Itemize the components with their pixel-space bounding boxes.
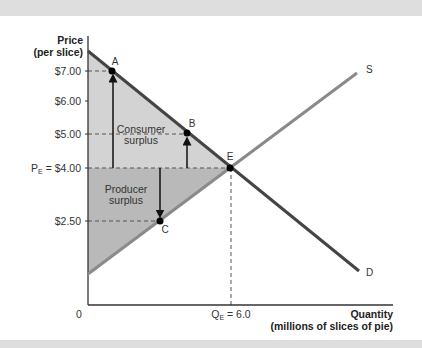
y-tick-7: $7.00 xyxy=(55,65,81,77)
point-a xyxy=(109,68,116,75)
y-tick-pe: PE = $4.00 xyxy=(31,162,81,175)
point-c-label: C xyxy=(161,224,168,235)
x-axis-title: Quantity xyxy=(350,308,393,320)
y-tick-250: $2.50 xyxy=(55,215,81,227)
y-tick-5: $5.00 xyxy=(55,128,81,140)
demand-label: D xyxy=(366,267,373,278)
point-b xyxy=(184,130,191,137)
x-axis-subtitle: (millions of slices of pie) xyxy=(270,320,393,332)
point-a-label: A xyxy=(112,56,119,67)
point-e xyxy=(227,165,234,172)
consumer-surplus-label-2: surplus xyxy=(124,134,158,146)
point-b-label: B xyxy=(189,118,196,129)
surplus-chart: Price (per slice) $7.00 $6.00 $5.00 PE =… xyxy=(0,0,422,348)
origin-label: 0 xyxy=(76,308,82,320)
y-tick-6: $6.00 xyxy=(55,95,81,107)
y-axis-subtitle: (per slice) xyxy=(33,46,83,58)
producer-surplus-label-2: surplus xyxy=(109,194,143,206)
y-axis-title: Price xyxy=(57,34,83,46)
supply-label: S xyxy=(366,64,373,75)
x-tick-qe: QE = 6.0 xyxy=(211,308,251,321)
point-e-label: E xyxy=(227,151,234,162)
